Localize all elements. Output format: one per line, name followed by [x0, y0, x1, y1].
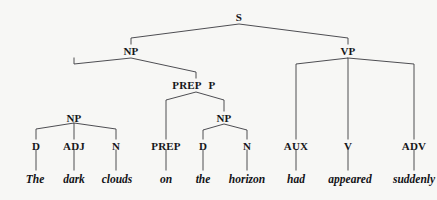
node-vp: VP: [340, 45, 355, 57]
word: appeared: [328, 173, 372, 186]
pos-tag: D: [32, 140, 40, 152]
pos-tag: ADV: [402, 140, 426, 152]
word: dark: [63, 173, 85, 185]
pos-tag: D: [199, 140, 207, 152]
word: clouds: [102, 173, 133, 185]
word: on: [160, 173, 172, 185]
word: horizon: [229, 173, 265, 185]
syntax-tree-diagram: S NP VP PREP P NP NP D ADJ N PREP D N AU…: [0, 0, 437, 200]
node-s: S: [236, 11, 242, 23]
word: The: [26, 173, 45, 185]
word: had: [287, 173, 305, 185]
node-np-subject: NP: [123, 45, 138, 57]
diagram-background: [0, 0, 437, 200]
node-prep-phrase-p: P: [209, 79, 216, 91]
node-np-inner: NP: [66, 112, 81, 124]
pos-tag: N: [112, 140, 120, 152]
pos-tag: ADJ: [63, 140, 85, 152]
node-prep-phrase-prep: PREP: [172, 79, 202, 91]
word: suddenly: [392, 173, 436, 186]
pos-tag: V: [344, 140, 352, 152]
pos-tag: N: [243, 140, 251, 152]
node-np-object: NP: [216, 112, 231, 124]
pos-tag: AUX: [284, 140, 308, 152]
pos-tag: PREP: [151, 140, 181, 152]
word: the: [196, 173, 211, 185]
